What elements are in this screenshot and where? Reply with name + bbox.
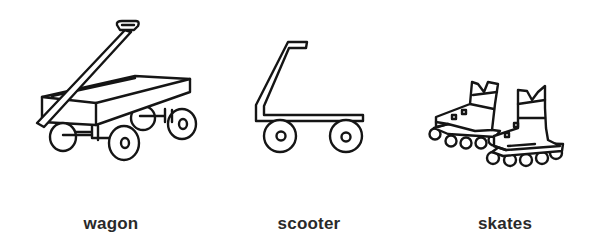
skate-right — [487, 86, 563, 166]
scooter-icon — [256, 42, 363, 152]
skate-left — [430, 82, 501, 149]
wagon-icon — [37, 21, 196, 160]
label-scooter: scooter — [249, 214, 369, 234]
picture-card: wagon scooter skates — [0, 0, 596, 247]
label-wagon: wagon — [51, 214, 171, 234]
label-skates: skates — [445, 214, 565, 234]
illustrations — [0, 0, 596, 247]
inline-skates-icon — [430, 82, 564, 166]
